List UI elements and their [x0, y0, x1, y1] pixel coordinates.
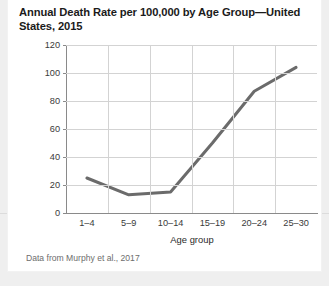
- x-axis-tick-label: 25–30: [268, 218, 324, 228]
- chart-figure: 020406080100120 Age group 1–45–910–1415–…: [8, 38, 321, 238]
- chart-title: Annual Death Rate per 100,000 by Age Gro…: [19, 6, 309, 33]
- y-axis-tick-mark: [63, 101, 66, 102]
- y-axis-tick-mark: [63, 45, 66, 46]
- gridline-vertical: [192, 45, 193, 213]
- y-axis-tick-labels: 020406080100120: [26, 45, 60, 213]
- gridline-vertical: [150, 45, 151, 213]
- y-axis-tick-mark: [63, 129, 66, 130]
- y-axis-tick-mark: [63, 213, 66, 214]
- y-axis-tick-label: 20: [34, 180, 60, 190]
- figure-card: Annual Death Rate per 100,000 by Age Gro…: [8, 0, 321, 271]
- y-axis-tick-label: 60: [34, 124, 60, 134]
- y-axis-tick-mark: [63, 185, 66, 186]
- gridline-vertical: [108, 45, 109, 213]
- figure-caption: Data from Murphy et al., 2017: [26, 253, 140, 263]
- y-axis-tick-mark: [63, 157, 66, 158]
- y-axis-tick-mark: [63, 73, 66, 74]
- gridline-vertical: [275, 45, 276, 213]
- y-axis-tick-label: 100: [34, 68, 60, 78]
- page-background: Annual Death Rate per 100,000 by Age Gro…: [0, 0, 329, 286]
- y-axis-tick-label: 0: [34, 208, 60, 218]
- gridline-vertical: [233, 45, 234, 213]
- x-axis-line: [66, 213, 318, 214]
- y-axis-tick-label: 80: [34, 96, 60, 106]
- y-axis-tick-label: 40: [34, 152, 60, 162]
- plot-area: [66, 45, 317, 213]
- x-axis-title: Age group: [66, 234, 318, 245]
- y-axis-tick-label: 120: [34, 40, 60, 50]
